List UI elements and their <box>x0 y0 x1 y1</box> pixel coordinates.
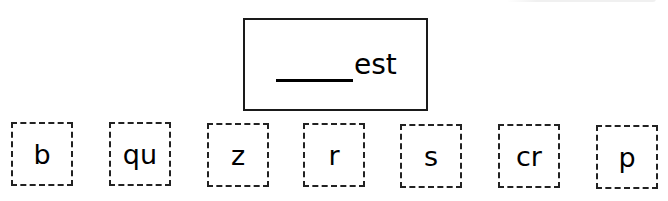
tile-label: z <box>231 141 245 171</box>
tile-label: r <box>328 141 339 171</box>
letter-tile[interactable]: r <box>303 123 365 187</box>
letter-tile[interactable]: s <box>400 124 462 188</box>
letter-tile[interactable]: qu <box>109 122 171 186</box>
tile-label: p <box>618 143 635 173</box>
letter-tile[interactable]: z <box>207 123 269 187</box>
letter-tile[interactable]: p <box>596 125 658 189</box>
tile-label: qu <box>123 140 157 170</box>
letter-tile[interactable]: b <box>11 122 73 186</box>
letter-tiles: b qu z r s cr p <box>0 0 668 201</box>
tile-label: cr <box>516 142 542 172</box>
letter-tile[interactable]: cr <box>498 124 560 188</box>
tile-label: s <box>424 142 438 172</box>
tile-label: b <box>33 140 50 170</box>
